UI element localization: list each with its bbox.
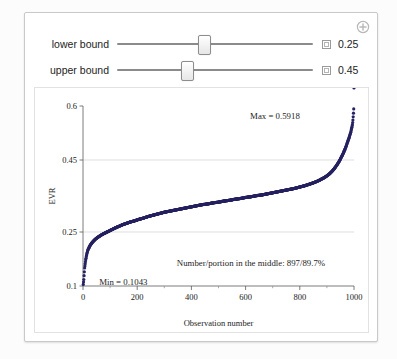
svg-text:600: 600 [239, 292, 252, 302]
svg-text:Observation number: Observation number [184, 318, 254, 328]
control-value-upper-bound: 0.45 [338, 64, 372, 76]
stepper-square-icon-upper-bound[interactable] [322, 66, 331, 75]
control-row-lower-bound: lower bound 0.25 [25, 33, 377, 55]
slider-thumb-lower-bound[interactable] [198, 35, 211, 55]
manipulate-panel: lower bound 0.25 upper bound 0.45 0.10.2… [24, 12, 378, 342]
control-label-lower-bound: lower bound [25, 38, 117, 50]
svg-text:800: 800 [293, 292, 306, 302]
manipulate-screen: lower bound 0.25 upper bound 0.45 0.10.2… [0, 0, 397, 359]
svg-text:1000: 1000 [346, 292, 363, 302]
slider-upper-bound[interactable] [117, 60, 313, 80]
stepper-square-icon-lower-bound[interactable] [322, 40, 331, 49]
control-label-upper-bound: upper bound [25, 64, 117, 76]
svg-text:400: 400 [185, 292, 198, 302]
max-annotation: Max = 0.5918 [250, 111, 300, 121]
svg-text:0.45: 0.45 [62, 155, 77, 165]
control-row-upper-bound: upper bound 0.45 [25, 59, 377, 81]
middle-count-annotation: Number/portion in the middle: 897/89.7% [177, 258, 326, 268]
slider-track-upper-bound [117, 69, 313, 71]
slider-lower-bound[interactable] [117, 34, 313, 54]
plot-panel: 0.10.250.450.602004006008001000Observati… [34, 87, 369, 333]
svg-text:200: 200 [131, 292, 144, 302]
control-value-lower-bound: 0.25 [338, 38, 372, 50]
evr-scatter-chart: 0.10.250.450.602004006008001000Observati… [35, 88, 368, 332]
plus-circle-icon[interactable] [356, 20, 370, 34]
svg-text:0.6: 0.6 [66, 101, 77, 111]
svg-text:0.1: 0.1 [66, 281, 77, 291]
min-annotation: Min = 0.1043 [99, 277, 148, 287]
slider-track-lower-bound [117, 43, 313, 45]
svg-text:EVR: EVR [47, 187, 57, 204]
svg-text:0.25: 0.25 [62, 227, 77, 237]
svg-text:0: 0 [81, 292, 85, 302]
slider-thumb-upper-bound[interactable] [181, 61, 194, 81]
